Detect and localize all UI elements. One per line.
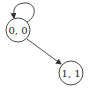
node-label: 0, 0 bbox=[8, 25, 27, 36]
node-1-1: 1, 1 bbox=[59, 61, 83, 85]
edge-00-to-11 bbox=[27, 39, 61, 64]
node-label: 1, 1 bbox=[61, 68, 80, 79]
graph-canvas: 0, 0 1, 1 bbox=[0, 0, 89, 90]
node-0-0: 0, 0 bbox=[6, 18, 30, 42]
